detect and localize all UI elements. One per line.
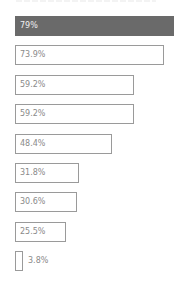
bar-value-label: 59.2% (20, 104, 45, 124)
bar-8: 25.5% (15, 222, 66, 242)
bar-6: 31.8% (15, 163, 79, 183)
bar-value-label: 25.5% (20, 222, 45, 242)
bar-value-label: 48.4% (20, 134, 45, 154)
bar-1: 79% (15, 16, 174, 36)
bar-5: 48.4% (15, 134, 112, 154)
bar-value-label: 59.2% (20, 75, 45, 95)
bar-4: 59.2% (15, 104, 134, 124)
bar-value-label: 30.6% (20, 192, 45, 212)
bar-3: 59.2% (15, 75, 134, 95)
bar-value-label: 3.8% (28, 251, 48, 271)
clipped-title (16, 0, 156, 2)
bar-2: 73.9% (15, 45, 164, 65)
bar-value-label: 31.8% (20, 163, 45, 183)
bar-7: 30.6% (15, 192, 77, 212)
bar-value-label: 73.9% (20, 45, 45, 65)
bar-value-label: 79% (20, 16, 38, 36)
bar-9 (15, 251, 23, 271)
